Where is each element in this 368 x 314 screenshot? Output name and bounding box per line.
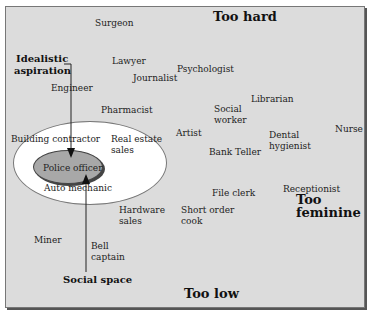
occupation-building-contractor: Building contractor — [11, 134, 100, 144]
occupation-miner: Miner — [34, 235, 62, 245]
occupation-receptionist: Receptionist — [283, 184, 340, 194]
occupation-auto-mechanic: Auto mechanic — [44, 183, 112, 193]
occupation-hardware-1: Hardware — [119, 205, 165, 215]
occupation-bell-captain-1: Bell — [91, 241, 109, 251]
idealistic-label-1: Idealistic — [16, 53, 68, 64]
occupation-pharmacist: Pharmacist — [101, 105, 153, 115]
occupation-bank-teller: Bank Teller — [209, 147, 261, 157]
occupation-surgeon: Surgeon — [95, 18, 134, 28]
occupation-social-worker-2: worker — [214, 115, 247, 125]
occupation-journalist: Journalist — [133, 73, 177, 83]
too-feminine-label-2: feminine — [296, 206, 361, 220]
occupation-file-clerk: File clerk — [212, 188, 255, 198]
social-space-label: Social space — [63, 274, 132, 285]
occupation-short-order-1: Short order — [181, 205, 234, 215]
idealistic-label-2: aspiration — [14, 65, 71, 76]
occupation-social-worker-1: Social — [214, 104, 242, 114]
occupation-police-officer: Police officer — [43, 163, 102, 173]
occupation-lawyer: Lawyer — [112, 56, 146, 66]
arrows — [0, 0, 368, 314]
occupation-librarian: Librarian — [251, 94, 294, 104]
occupation-dental-2: hygienist — [269, 141, 311, 151]
occupation-nurse: Nurse — [335, 124, 363, 134]
occupation-artist: Artist — [176, 128, 202, 138]
occupation-psychologist: Psychologist — [177, 64, 234, 74]
too-hard-label: Too hard — [213, 10, 277, 24]
occupation-engineer: Engineer — [51, 83, 93, 93]
occupation-short-order-2: cook — [181, 216, 202, 226]
occupation-bell-captain-2: captain — [91, 252, 125, 262]
occupation-real-estate-1: Real estate — [111, 134, 162, 144]
occupation-real-estate-2: sales — [111, 145, 134, 155]
occupation-hardware-2: sales — [119, 216, 142, 226]
occupation-dental-1: Dental — [269, 130, 299, 140]
too-low-label: Too low — [184, 287, 239, 301]
